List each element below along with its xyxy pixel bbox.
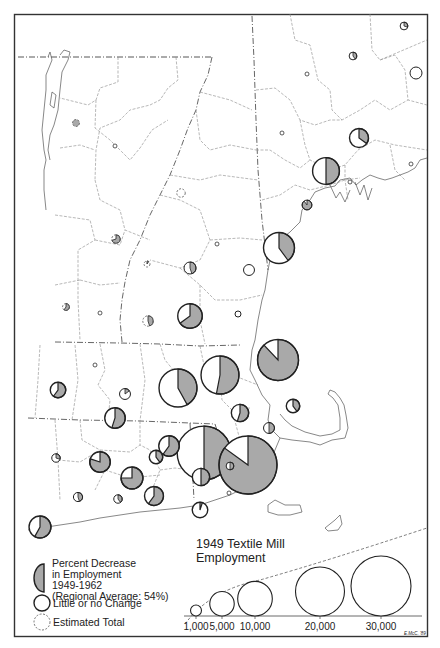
pie-symbol-ma-newbedford-area (231, 404, 248, 421)
pie-symbol-ri-providence (192, 468, 209, 485)
state-boundaries (28, 16, 268, 500)
pie-decrease-slice (148, 316, 153, 326)
pie-symbol-nh-north-dot (305, 72, 309, 76)
pie-symbol-ma-central (105, 408, 125, 428)
pie-symbol-ma-boston (286, 399, 299, 412)
pie-symbol-nh-south (178, 304, 202, 328)
cartographer-credit: E.McC. '89 (404, 631, 426, 636)
pie-symbol-ct-hartford-small (52, 454, 60, 462)
small-site-dot (227, 491, 231, 495)
pie-symbol-vt-mid-estimated (112, 235, 120, 243)
pie-symbol-vt-s-dot (98, 311, 102, 315)
pie-decrease-slice (326, 158, 339, 185)
scale-label-30000: 30,000 (366, 621, 397, 632)
pie-symbol-ma-south-shore (264, 423, 275, 434)
pie-symbol-me-coast-dot (348, 180, 352, 184)
pie-symbol-me-east-open (410, 67, 422, 79)
pie-symbol-ri-south (192, 502, 207, 517)
scale-circle-10000 (238, 581, 273, 616)
open-circle-icon (34, 595, 50, 611)
pie-symbol-vt-se-estimated (143, 316, 153, 326)
pie-symbol-vt-central-dot (113, 144, 117, 148)
pie-symbol-me-coast-dot2 (409, 162, 413, 166)
scale-label-20000: 20,000 (305, 621, 336, 632)
pie-symbol-ct-southwest (29, 516, 51, 538)
pie-symbol-ct-new-london (145, 487, 164, 506)
map-canvas: Percent Decrease in Employment 1949-1962… (0, 0, 440, 648)
pie-symbol-me-north-2 (349, 52, 357, 60)
pie-symbol-vt-east-estimated (177, 189, 185, 197)
pie-symbol-nh-small-open (244, 265, 255, 276)
scale-circle-1000 (191, 605, 202, 616)
scale-circle-5000 (210, 592, 234, 616)
pie-symbols-layer (29, 22, 422, 538)
half-shaded-circle-icon (34, 564, 44, 592)
small-site-dot (215, 242, 219, 246)
scale-label-5000: 5,000 (209, 621, 234, 632)
pie-symbol-ma-n-central (120, 389, 131, 400)
pie-symbol-me-central (350, 129, 369, 148)
pie-symbol-ct-south-central (114, 495, 122, 503)
pie-symbol-vt-sw-estimated (63, 304, 70, 311)
legend-estimated: Estimated Total (34, 614, 125, 630)
pie-symbol-ma-springfield (121, 467, 143, 489)
pie-symbol-ma-lawrence (201, 356, 239, 394)
pie-symbol-ma-nw-1 (50, 382, 65, 397)
legend-estimated-label: Estimated Total (53, 616, 125, 628)
pie-symbol-nh-manchester (264, 233, 295, 264)
legend-decrease: Percent Decrease in Employment 1949-1962… (34, 557, 169, 602)
pie-symbol-ct-central (90, 452, 110, 472)
scale-circle-20000 (296, 567, 345, 616)
small-site-dot (113, 144, 117, 148)
pie-symbol-ri-small-2 (227, 491, 231, 495)
small-site-dot (280, 131, 284, 135)
small-site-dot (305, 72, 309, 76)
scale-circles-layer: 1,0005,00010,00020,00030,000 (183, 556, 411, 632)
pie-symbol-nh-small-estimated (215, 242, 219, 246)
pie-symbol-ma-worcester-n (159, 369, 197, 407)
small-site-dot (348, 180, 352, 184)
pie-symbol-nh-central (184, 262, 196, 274)
pie-symbol-vt-mid2-estimated (144, 261, 150, 267)
pie-decrease-slice (216, 356, 239, 394)
small-site-dot (98, 311, 102, 315)
pie-symbol-me-south-shaded (302, 200, 312, 210)
pie-symbol-me-lewiston (313, 158, 340, 185)
legend-no-change-label: Little or no Change (53, 597, 142, 609)
pie-symbol-nh-small-open2 (235, 311, 241, 317)
small-site-dot (409, 162, 413, 166)
pie-symbol-nh-central-dot (280, 131, 284, 135)
pie-symbol-ri-north (159, 436, 179, 456)
legend-no-change: Little or no Change (34, 595, 142, 611)
pie-symbol-me-north-1 (400, 22, 408, 30)
pie-symbol-vt-nw-estimated (73, 120, 80, 127)
small-site-dot (93, 363, 97, 367)
scale-circle-30000 (351, 556, 411, 616)
pie-symbol-ct-southwest-small (73, 492, 82, 501)
pie-symbol-ma-nw-small (93, 363, 97, 367)
county-boundaries (35, 14, 427, 500)
legend-title-line2: Employment (196, 551, 266, 565)
pie-symbol-ri-small-1 (226, 462, 234, 470)
legend-title-line1: 1949 Textile Mill (196, 537, 285, 551)
dashed-circle-icon (34, 614, 50, 630)
scale-label-1000: 1,000 (183, 621, 208, 632)
pie-symbol-ma-lowell (258, 340, 299, 381)
scale-label-10000: 10,000 (240, 621, 271, 632)
